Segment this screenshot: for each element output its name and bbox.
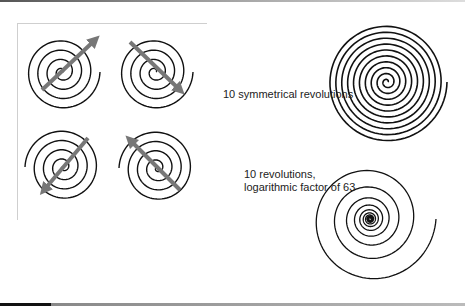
spiral-large-symmetrical [330, 26, 447, 140]
spiral-small-2 [122, 41, 193, 108]
label-symmetrical: 10 symmetrical revolutions [223, 88, 353, 101]
arrow-down-left-icon [44, 138, 88, 190]
label-logarithmic-line2: logarithmic factor of 63 [244, 181, 355, 194]
spiral-small-1 [29, 41, 100, 108]
spiral-diagram [0, 0, 465, 306]
label-logarithmic-line1: 10 revolutions, [244, 168, 316, 181]
arrow-down-right-icon [130, 42, 180, 90]
